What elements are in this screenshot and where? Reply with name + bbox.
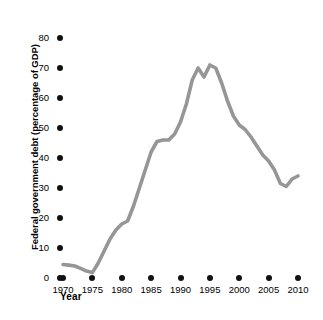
y-axis-tick-dot	[57, 95, 63, 101]
y-axis-tick-dot	[57, 185, 63, 191]
x-axis-tick: 2010	[283, 275, 313, 295]
y-axis-tick-label: 80	[38, 32, 49, 44]
x-axis-tick-label: 2010	[283, 284, 313, 295]
y-axis-tick-dot	[57, 155, 63, 161]
x-axis-tick: 1990	[166, 275, 196, 295]
x-axis-tick: 2000	[224, 275, 254, 295]
y-axis-tick-dot	[57, 245, 63, 251]
x-axis-tick-label: 1995	[195, 284, 225, 295]
chart-figure: Federal government debt (percentage of G…	[0, 0, 323, 320]
y-axis-tick: 70	[0, 62, 63, 74]
y-axis-tick-dot	[57, 35, 63, 41]
y-axis-tick-label: 10	[38, 242, 49, 254]
y-axis-tick-label: 20	[38, 212, 49, 224]
y-axis-tick: 30	[0, 182, 63, 194]
x-axis-tick: 1980	[107, 275, 137, 295]
x-axis-tick-label: 1980	[107, 284, 137, 295]
x-axis-tick-dot	[89, 275, 95, 281]
x-axis-tick-label: 1985	[136, 284, 166, 295]
x-axis-tick: 1995	[195, 275, 225, 295]
x-axis-title: Year	[60, 291, 82, 302]
x-axis-tick-label: 2005	[254, 284, 284, 295]
y-axis-tick: 80	[0, 32, 63, 44]
debt-line-series	[63, 65, 298, 273]
y-axis-tick-label: 30	[38, 182, 49, 194]
y-axis-tick-label: 40	[38, 152, 49, 164]
x-axis-tick-dot	[60, 275, 66, 281]
x-axis-tick-dot	[295, 275, 301, 281]
x-axis-tick-label: 1990	[166, 284, 196, 295]
y-axis-tick: 50	[0, 122, 63, 134]
y-axis-tick-label: 70	[38, 62, 49, 74]
y-axis-tick-dot	[57, 215, 63, 221]
x-axis-tick: 2005	[254, 275, 284, 295]
y-axis-tick: 60	[0, 92, 63, 104]
x-axis-tick-label: 2000	[224, 284, 254, 295]
x-axis-tick-dot	[207, 275, 213, 281]
x-axis-tick-dot	[178, 275, 184, 281]
y-axis-tick-label: 50	[38, 122, 49, 134]
y-axis-tick-label: 60	[38, 92, 49, 104]
x-axis-tick-dot	[266, 275, 272, 281]
y-axis-tick-dot	[57, 65, 63, 71]
x-axis-tick: 1985	[136, 275, 166, 295]
y-axis-tick-dot	[57, 125, 63, 131]
y-axis-tick: 10	[0, 242, 63, 254]
x-axis-tick-dot	[119, 275, 125, 281]
x-axis-tick-dot	[148, 275, 154, 281]
y-axis-tick: 40	[0, 152, 63, 164]
y-axis-tick: 20	[0, 212, 63, 224]
x-axis-tick-dot	[236, 275, 242, 281]
